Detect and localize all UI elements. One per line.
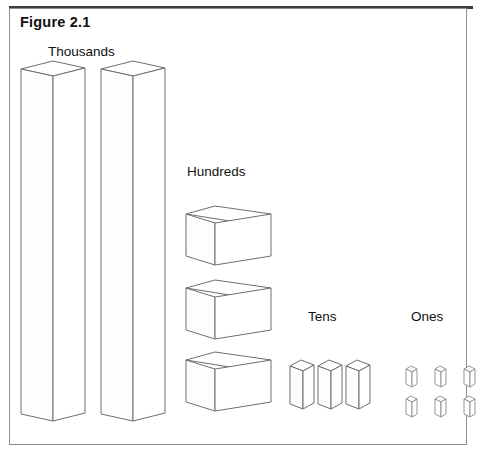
figure-border-box: [9, 8, 467, 445]
label-ones: Ones: [411, 309, 443, 324]
label-hundreds: Hundreds: [187, 164, 246, 179]
figure-2-1: Figure 2.1 Thousands Hundreds Tens Ones: [0, 0, 484, 456]
label-tens: Tens: [308, 309, 337, 324]
figure-caption: Figure 2.1: [20, 14, 91, 30]
label-thousands: Thousands: [48, 44, 115, 59]
ones-cube-front-face: [470, 369, 475, 387]
ones-cube-front-face: [470, 399, 475, 417]
